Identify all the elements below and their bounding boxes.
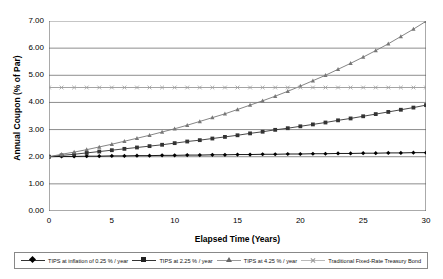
legend-item: TIPS at inflation of 0.25 % / year: [21, 256, 128, 265]
data-point: [411, 151, 415, 155]
data-point: [273, 128, 277, 132]
data-point: [286, 152, 290, 156]
x-marker-icon: [301, 256, 325, 265]
data-point: [160, 143, 164, 147]
data-point: [236, 133, 240, 137]
data-point: [248, 152, 252, 156]
y-tick-label: 6.00: [4, 44, 44, 52]
data-point: [424, 103, 426, 107]
legend-label: TIPS at 4.25 % / year: [244, 258, 297, 264]
legend-label: TIPS at inflation of 0.25 % / year: [48, 258, 128, 264]
data-point: [361, 151, 365, 155]
data-point: [123, 147, 127, 151]
data-point: [386, 151, 390, 155]
data-point: [110, 148, 114, 152]
data-point: [298, 124, 302, 128]
data-point: [97, 150, 101, 154]
x-tick-label: 0: [34, 216, 64, 225]
data-point: [135, 146, 139, 150]
series-3: [49, 21, 426, 158]
data-point: [323, 152, 327, 156]
plot-area: [49, 21, 426, 211]
data-point: [399, 108, 403, 112]
data-point: [248, 131, 252, 135]
data-point: [386, 110, 390, 114]
data-point: [311, 152, 315, 156]
series-2: [49, 103, 426, 158]
legend-item: TIPS at 2.25 % / year: [132, 256, 212, 265]
legend-item: TIPS at 4.25 % / year: [217, 256, 297, 265]
x-tick-label: 10: [160, 216, 190, 225]
y-tick-label: 5.00: [4, 71, 44, 79]
data-point: [386, 42, 390, 46]
data-point: [411, 27, 415, 31]
triangle-marker-icon: [217, 256, 241, 265]
data-point: [324, 121, 328, 125]
data-point: [148, 144, 152, 148]
data-point: [85, 151, 89, 155]
data-point: [223, 135, 227, 139]
data-point: [235, 152, 239, 156]
data-point: [110, 154, 114, 158]
x-tick-label: 15: [223, 216, 253, 225]
data-point: [210, 137, 214, 141]
series-4: [49, 86, 426, 90]
x-axis-title: Elapsed Time (Years): [49, 234, 426, 244]
y-tick-label: 7.00: [4, 17, 44, 25]
data-point: [173, 141, 177, 145]
series-1: [49, 151, 426, 159]
legend-item: Traditional Fixed-Rate Treasury Bond: [301, 256, 421, 265]
data-point: [185, 140, 189, 144]
y-axis-tick-labels: 0.001.002.003.004.005.006.007.00: [2, 0, 44, 279]
data-point: [399, 34, 403, 38]
diamond-marker-icon: [21, 256, 45, 265]
data-point: [198, 138, 202, 142]
y-tick-label: 4.00: [4, 98, 44, 106]
x-tick-label: 30: [411, 216, 441, 225]
data-point: [424, 151, 426, 155]
x-tick-label: 5: [97, 216, 127, 225]
data-point: [261, 130, 265, 134]
data-point: [336, 151, 340, 155]
y-tick-label: 3.00: [4, 126, 44, 134]
data-point: [273, 152, 277, 156]
y-tick-label: 1.00: [4, 180, 44, 188]
data-point: [412, 106, 416, 110]
data-point: [311, 123, 315, 127]
data-point: [374, 112, 378, 116]
chart-container: Annual Coupon (% of Par) 0.001.002.003.0…: [0, 0, 443, 279]
x-tick-label: 20: [285, 216, 315, 225]
y-tick-label: 0.00: [4, 207, 44, 215]
legend-label: TIPS at 2.25 % / year: [159, 258, 212, 264]
data-point: [374, 151, 378, 155]
square-marker-icon: [132, 256, 156, 265]
data-point: [298, 152, 302, 156]
data-point: [122, 154, 126, 158]
data-point: [399, 151, 403, 155]
data-point: [349, 117, 353, 121]
legend-label: Traditional Fixed-Rate Treasury Bond: [328, 258, 421, 264]
data-point: [286, 126, 290, 130]
chart-legend: TIPS at inflation of 0.25 % / year TIPS …: [14, 252, 428, 269]
x-tick-label: 25: [348, 216, 378, 225]
data-point: [336, 118, 340, 122]
series-line: [49, 105, 426, 157]
data-point: [97, 154, 101, 158]
data-point: [349, 151, 353, 155]
data-point: [361, 114, 365, 118]
data-point: [261, 152, 265, 156]
y-tick-label: 2.00: [4, 153, 44, 161]
